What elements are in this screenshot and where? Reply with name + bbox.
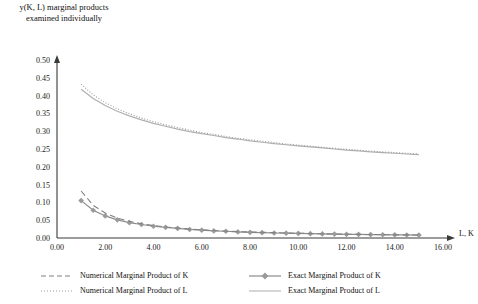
x-axis-tick-label: 4.00 [147,243,161,252]
plot-area: 0.000.050.100.150.200.250.300.350.400.45… [0,0,478,268]
legend-item-exact-l: Exact Marginal Product of L [248,283,448,298]
legend-item-numerical-k: Numerical Marginal Product of K [40,268,230,283]
x-axis-arrow-icon [447,235,455,241]
y-axis-tick-label: 0.05 [36,216,50,225]
legend-swatch-dotted-icon [40,286,74,296]
legend-swatch-solid-icon [248,286,282,296]
y-axis-tick-label: 0.15 [36,181,50,190]
y-axis-tick-label: 0.35 [36,109,50,118]
chart-container: y(K, L) marginal products examined indiv… [0,0,478,304]
y-axis-tick-label: 0.50 [36,56,50,65]
y-axis-tick-label: 0.10 [36,198,50,207]
x-axis-title: L, K [459,229,474,238]
x-axis-tick-label: 6.00 [195,243,209,252]
series-marker [114,217,120,223]
y-axis-tick-labels: 0.000.050.100.150.200.250.300.350.400.45… [36,56,50,243]
legend-swatch-solid-diamond-icon [248,271,282,281]
series-marker [151,223,157,229]
y-axis-arrow-icon [54,55,60,63]
legend-label: Exact Marginal Product of K [288,271,381,281]
x-axis-tick-label: 12.00 [338,243,356,252]
x-axis-tick-label: 16.00 [434,243,452,252]
legend-label: Numerical Marginal Product of K [80,271,188,281]
x-axis-tick-labels: 0.002.004.006.008.0010.0012.0014.0016.00 [50,243,452,252]
x-axis-tick-label: 8.00 [243,243,257,252]
y-axis-tick-label: 0.45 [36,74,50,83]
series-marker [139,222,145,228]
series-line [81,89,419,155]
x-axis-tick-label: 10.00 [289,243,307,252]
y-axis-tick-label: 0.25 [36,145,50,154]
series-marker [102,213,108,219]
chart-legend: Numerical Marginal Product of K Exact Ma… [40,268,460,298]
y-axis-tick-label: 0.40 [36,92,50,101]
legend-item-numerical-l: Numerical Marginal Product of L [40,283,230,298]
y-axis-tick-label: 0.20 [36,163,50,172]
x-axis-tick-label: 14.00 [386,243,404,252]
series-line [81,84,419,154]
y-axis-tick-label: 0.30 [36,127,50,136]
x-axis-tick-label: 0.00 [50,243,64,252]
legend-label: Numerical Marginal Product of L [80,286,187,296]
series-line [81,191,419,235]
legend-label: Exact Marginal Product of L [288,286,380,296]
x-axis-tick-label: 2.00 [98,243,112,252]
y-axis-tick-label: 0.00 [36,234,50,243]
legend-item-exact-k: Exact Marginal Product of K [248,268,448,283]
series-layer [78,84,421,238]
legend-swatch-dashed-icon [40,271,74,281]
